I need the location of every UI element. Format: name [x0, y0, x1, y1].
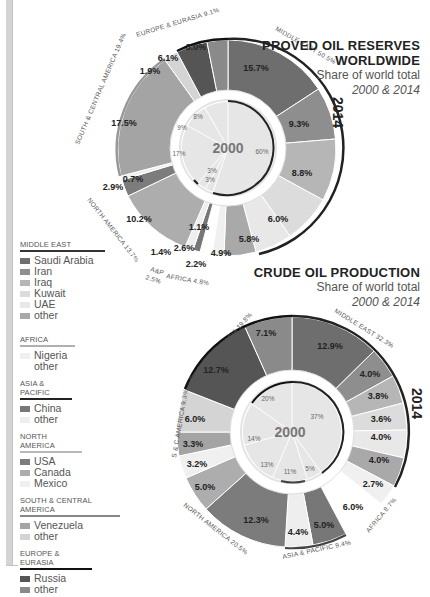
- reserves-slice-label: 10.2%: [126, 214, 152, 224]
- production-slice-label: 3.8%: [368, 391, 389, 401]
- reserves-inner-label: 3%: [205, 176, 215, 183]
- reserves-slice-label: 17.5%: [111, 118, 137, 128]
- legend-label: other: [34, 310, 58, 321]
- legend-item: other: [20, 584, 160, 595]
- production-slice-label: 3.3%: [183, 439, 204, 449]
- legend-label: other: [34, 414, 58, 425]
- reserves-inner-label: 3%: [207, 167, 217, 174]
- legend-item: Mexico: [20, 478, 160, 489]
- legend-swatch: [20, 313, 30, 319]
- legend-heading: ASIA & PACIFIC: [20, 379, 72, 400]
- legend-swatch: [20, 576, 30, 582]
- reserves-slice-label: 9.3%: [289, 119, 310, 129]
- production-inner-label: 11%: [284, 468, 297, 475]
- reserves-slice-label: 8.8%: [292, 168, 313, 178]
- production-slice-label: 7.1%: [256, 328, 277, 338]
- production-donut: 2000 37% 5% 11% 13% 14% 20% 12.9% 4.0% 3…: [170, 307, 425, 560]
- reserves-inner-label: 8%: [193, 113, 203, 120]
- legend-heading: AFRICA: [20, 335, 75, 347]
- legend-swatch: [20, 534, 30, 540]
- reserves-slice-label: 2.2%: [186, 259, 207, 269]
- production-title-block: CRUDE OIL PRODUCTION Share of world tota…: [254, 265, 420, 310]
- legend-heading: NORTH AMERICA: [20, 432, 82, 453]
- production-title: CRUDE OIL PRODUCTION: [254, 265, 420, 280]
- legend-group-middle-east: MIDDLE EAST Saudi Arabia Iran Iraq Kuwai…: [20, 233, 160, 321]
- legend-label: other: [34, 361, 58, 372]
- production-slice-label: 4.0%: [371, 432, 392, 442]
- production-slice-label: 4.0%: [360, 369, 381, 379]
- reserves-title-line2: WORLDWIDE: [262, 53, 420, 68]
- production-slice-label: 6.0%: [343, 502, 364, 512]
- reserves-subtitle: Share of world total: [262, 68, 420, 83]
- legend-item: other: [20, 531, 160, 542]
- reserves-inner-year: 2000: [212, 140, 243, 156]
- legend-swatch: [20, 523, 30, 529]
- production-inner-label: 5%: [305, 465, 315, 472]
- legend-swatch: [20, 459, 30, 465]
- legend-swatch: [20, 481, 30, 487]
- production-slice-label: 5.0%: [314, 520, 335, 530]
- reserves-region-label-af: AFRICA 4.8%: [166, 272, 210, 286]
- reserves-inner-label: 60%: [255, 148, 268, 155]
- production-years: 2000 & 2014: [254, 295, 420, 310]
- legend-group-asia-pacific: ASIA & PACIFIC China other: [20, 379, 160, 425]
- legend-heading: SOUTH & CENTRAL AMERICA: [20, 496, 120, 517]
- reserves-slice-label: 5.8%: [239, 234, 260, 244]
- reserves-slice-label: 2.9%: [103, 182, 124, 192]
- production-slice-label: 4.0%: [369, 455, 390, 465]
- legend-swatch: [20, 269, 30, 275]
- legend-item: other: [20, 310, 160, 321]
- legend-swatch: [20, 353, 30, 359]
- legend-swatch: [20, 470, 30, 476]
- legend: MIDDLE EAST Saudi Arabia Iran Iraq Kuwai…: [20, 233, 160, 597]
- production-slice-label: 3.6%: [371, 414, 392, 424]
- legend-label: other: [34, 531, 58, 542]
- production-inner-label: 13%: [260, 461, 273, 468]
- reserves-inner-label: 9%: [177, 124, 187, 131]
- legend-label: other: [34, 584, 58, 595]
- production-slice-label: 5.0%: [195, 482, 216, 492]
- production-slice-label: 12.9%: [317, 341, 343, 351]
- production-inner-label: 14%: [247, 435, 260, 442]
- reserves-slice-label: 6.1%: [158, 53, 179, 63]
- reserves-title-block: PROVED OIL RESERVES WORLDWIDE Share of w…: [262, 38, 420, 98]
- reserves-region-label-eu: EUROPE & EURASIA 9.1%: [135, 6, 220, 38]
- reserves-inner-label: 17%: [172, 150, 185, 157]
- reserves-title-line1: PROVED OIL RESERVES: [262, 38, 420, 53]
- production-inner-label: 37%: [310, 413, 323, 420]
- reserves-slice-label: 0.7%: [123, 174, 144, 184]
- legend-group-north-america: NORTH AMERICA USA Canada Mexico: [20, 432, 160, 489]
- production-slice-label: 6.0%: [185, 414, 206, 424]
- legend-swatch: [20, 258, 30, 264]
- reserves-slice-label: 1.1%: [189, 222, 210, 232]
- legend-swatch: [20, 417, 30, 423]
- legend-heading: MIDDLE EAST: [20, 240, 105, 252]
- legend-group-europe-eurasia: EUROPE & EURASIA Russia other: [20, 549, 160, 595]
- production-slice-label: 12.3%: [243, 515, 269, 525]
- production-slice-label: 2.7%: [363, 479, 384, 489]
- legend-group-africa: AFRICA Nigeria other: [20, 328, 160, 372]
- legend-swatch: [20, 406, 30, 412]
- production-inner-year: 2000: [274, 424, 305, 440]
- legend-item: other: [20, 361, 160, 372]
- reserves-slice-label: 1.9%: [140, 66, 161, 76]
- legend-label: Mexico: [34, 478, 67, 489]
- legend-swatch: [20, 291, 30, 297]
- legend-item: other: [20, 414, 160, 425]
- production-outer-year: 2014: [409, 388, 425, 419]
- production-inner-label: 20%: [261, 395, 274, 402]
- reserves-slice-label: 3.0%: [186, 42, 207, 52]
- reserves-slice-label: 2.6%: [174, 243, 195, 253]
- production-subtitle: Share of world total: [254, 280, 420, 295]
- legend-swatch: [20, 364, 30, 370]
- reserves-slice-label: 6.0%: [268, 214, 289, 224]
- production-slice-label: 3.2%: [187, 459, 208, 469]
- legend-swatch: [20, 587, 30, 593]
- legend-swatch: [20, 280, 30, 286]
- legend-group-south-central-america: SOUTH & CENTRAL AMERICA Venezuela other: [20, 496, 160, 542]
- legend-heading: EUROPE & EURASIA: [20, 549, 92, 570]
- reserves-years: 2000 & 2014: [262, 83, 420, 98]
- reserves-outer-year: 2014: [330, 97, 346, 128]
- legend-swatch: [20, 302, 30, 308]
- reserves-slice-label: 4.9%: [211, 248, 232, 258]
